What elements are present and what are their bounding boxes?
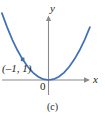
point-marker — [21, 58, 25, 62]
y-axis — [46, 16, 51, 96]
x-axis-arrowhead — [84, 77, 90, 82]
y-axis-arrowhead — [46, 16, 51, 22]
x-axis-label: x — [93, 74, 98, 85]
y-axis-label: y — [50, 3, 55, 14]
figure-container: y x 0 (–1, 1) (c) — [0, 0, 105, 119]
point-coordinate-label: (–1, 1) — [2, 63, 31, 74]
origin-label: 0 — [40, 81, 46, 92]
figure-caption: (c) — [0, 100, 105, 113]
parabola-plot — [0, 0, 105, 100]
